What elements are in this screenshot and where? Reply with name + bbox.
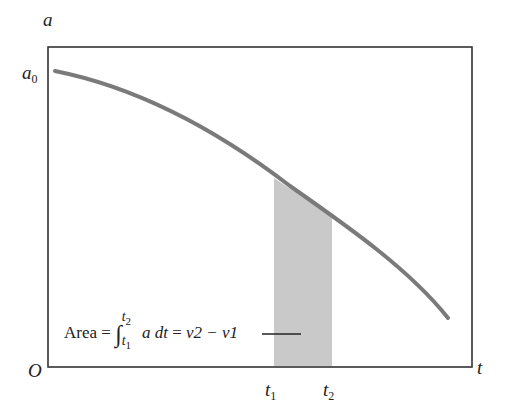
diagram-canvas [0, 0, 509, 409]
t1-label: t1 [265, 380, 276, 402]
a0-label: a0 [22, 63, 38, 85]
t2-label: t2 [323, 380, 334, 402]
area-equation: Area = ∫t2t1 a dt = v2 − v1 [64, 322, 238, 346]
acceleration-curve [55, 71, 448, 318]
x-axis-label: t [477, 358, 482, 377]
plot-frame [48, 47, 472, 367]
shaded-area [274, 178, 332, 366]
origin-label: O [28, 361, 42, 380]
y-axis-label: a [43, 10, 53, 29]
